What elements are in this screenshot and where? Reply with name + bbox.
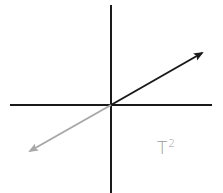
transform-label: T2	[157, 138, 175, 158]
label-base: T	[157, 138, 167, 158]
label-exponent: 2	[168, 138, 174, 149]
diagram-canvas: T2	[0, 0, 223, 193]
diagram-svg	[0, 0, 223, 193]
vector-up-right	[111, 53, 202, 105]
vector-down-left	[30, 105, 111, 151]
